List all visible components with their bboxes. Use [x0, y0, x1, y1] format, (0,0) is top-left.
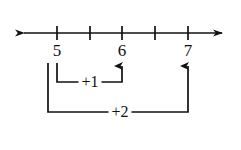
- plus-two-jump-label: +2: [108, 104, 131, 120]
- axis-label-7: 7: [184, 42, 193, 59]
- axis-label-6: 6: [118, 42, 127, 59]
- axis-label-5: 5: [53, 42, 62, 59]
- number-line-graphic: [0, 0, 241, 150]
- plus-one-jump-label: +1: [78, 74, 101, 90]
- number-line-figure: 5 6 7 +1 +2: [0, 0, 241, 150]
